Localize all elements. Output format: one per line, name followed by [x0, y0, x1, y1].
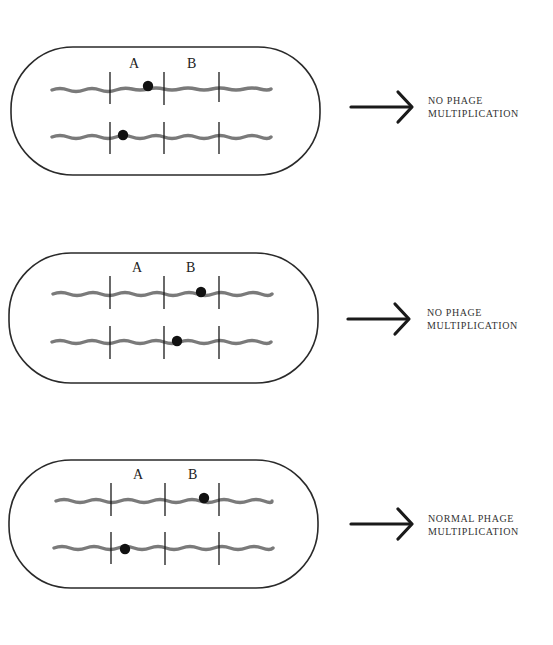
mutation-dot: [143, 81, 153, 91]
outcome-label: NO PHAGE MULTIPLICATION: [428, 94, 519, 120]
outcome-label: NO PHAGE MULTIPLICATION: [427, 306, 518, 332]
right-arrow-icon: [348, 88, 418, 128]
gene-a-label: A: [133, 467, 143, 483]
chromosome-2: [52, 341, 271, 344]
outcome-label: NORMAL PHAGE MULTIPLICATION: [428, 512, 519, 538]
gene-b-label: B: [187, 56, 196, 72]
mutation-dot: [172, 336, 182, 346]
gene-b-label: B: [188, 467, 197, 483]
mutation-dot: [120, 544, 130, 554]
bacterial-cell-2: [0, 206, 330, 421]
bacterial-cell-1: [0, 0, 330, 215]
mutation-dot: [199, 493, 209, 503]
chromosome-2: [54, 547, 273, 550]
mutation-dot: [196, 287, 206, 297]
mutation-dot: [118, 130, 128, 140]
gene-b-label: B: [186, 260, 195, 276]
bacterial-cell-3: [0, 413, 330, 628]
right-arrow-icon: [348, 505, 418, 545]
chromosome-1: [52, 88, 271, 92]
chromosome-1: [53, 293, 272, 296]
complementation-panel-1: A B NO PHAGE MULTIPLICATION: [0, 0, 553, 215]
right-arrow-icon: [345, 300, 415, 340]
gene-a-label: A: [129, 56, 139, 72]
complementation-panel-2: A B NO PHAGE MULTIPLICATION: [0, 206, 553, 421]
complementation-panel-3: A B NORMAL PHAGE MULTIPLICATION: [0, 413, 553, 628]
chromosome-1: [56, 500, 272, 503]
chromosome-2: [52, 136, 271, 139]
gene-a-label: A: [132, 260, 142, 276]
